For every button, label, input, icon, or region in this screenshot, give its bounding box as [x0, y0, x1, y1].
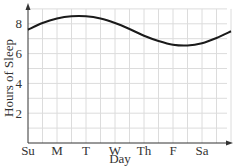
x-tick-label: Th [137, 143, 152, 158]
x-tick-label: T [82, 143, 90, 158]
x-tick-label: F [169, 143, 176, 158]
y-tick-label: 2 [16, 106, 23, 121]
x-tick-label: Su [21, 143, 35, 158]
x-axis-arrow-icon [226, 141, 233, 146]
y-axis-label: Hours of Sleep [1, 39, 16, 117]
y-tick-label: 6 [16, 46, 23, 61]
y-tick-label: 4 [16, 76, 23, 91]
x-tick-label: Sa [196, 143, 209, 158]
sleep-chart: 2468 SuMTWThFSa Day Hours of Sleep [0, 0, 235, 168]
y-tick-label: 8 [16, 16, 23, 31]
x-axis-label: Day [109, 151, 131, 166]
x-tick-label: M [51, 143, 63, 158]
y-tick-labels: 2468 [16, 16, 23, 120]
y-axis-arrow-icon [26, 3, 31, 10]
